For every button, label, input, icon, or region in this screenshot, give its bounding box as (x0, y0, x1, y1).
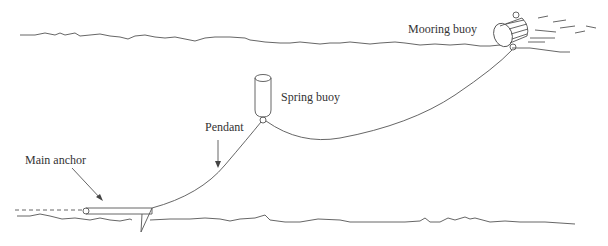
mooring-buoy-top-ring (513, 12, 519, 18)
pendant-label: Pendant (205, 121, 244, 133)
mooring-buoy-label: Mooring buoy (408, 23, 477, 35)
spring-buoy (255, 75, 271, 124)
main-anchor-label: Main anchor (25, 154, 86, 166)
water-surface-line-right (512, 48, 570, 52)
mooring-diagram: Mooring buoy Spring buoy Pendant Main an… (0, 0, 608, 246)
pendant-line (152, 122, 261, 208)
seabed-line-left (17, 214, 132, 221)
pendant-arrow (215, 140, 221, 168)
diagram-svg (0, 0, 608, 246)
spring-buoy-label: Spring buoy (281, 91, 340, 103)
seabed-line-right (150, 215, 575, 224)
wind-streaks (528, 16, 596, 42)
main-anchor-arrow (72, 168, 103, 201)
mooring-buoy-bottom-ring (510, 44, 516, 50)
mooring-buoy (490, 12, 528, 50)
